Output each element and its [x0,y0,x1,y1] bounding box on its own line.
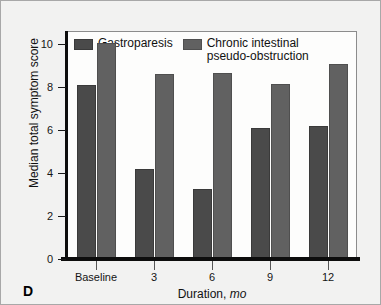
x-axis-title: Duration, mo [67,287,357,301]
y-tick-6 [58,130,66,131]
y-tick-label-0: 0 [13,254,53,264]
x-tick-12 [328,261,329,270]
figure-panel: Gastroparesis Chronic intestinal pseudo-… [0,0,381,305]
bar-gastroparesis-baseline [77,85,96,259]
x-tick-baseline [96,261,97,270]
x-tick-6 [212,261,213,270]
panel-label: D [23,283,33,299]
x-tick-9 [270,261,271,270]
y-tick-0 [58,259,66,260]
x-axis-title-text: Duration, [178,287,230,301]
bar-gastroparesis-12 [309,126,328,259]
x-axis-line [61,257,360,261]
bars-layer [67,31,357,259]
x-tick-3 [154,261,155,270]
y-tick-2 [58,216,66,217]
x-tick-label-12: 12 [288,271,368,283]
bar-gastroparesis-3 [135,169,154,259]
bar-gastroparesis-6 [193,189,212,259]
y-tick-4 [58,173,66,174]
bar-cipo-9 [271,84,290,259]
bar-cipo-12 [329,64,348,259]
y-tick-8 [58,87,66,88]
bar-cipo-baseline [97,43,116,259]
bar-gastroparesis-9 [251,128,270,259]
y-axis-title: Median total symptom score [27,13,41,213]
y-tick-10 [58,44,66,45]
bar-cipo-6 [213,73,232,259]
x-axis-title-unit: mo [230,287,247,301]
bar-cipo-3 [155,74,174,259]
y-axis-line [65,31,68,259]
